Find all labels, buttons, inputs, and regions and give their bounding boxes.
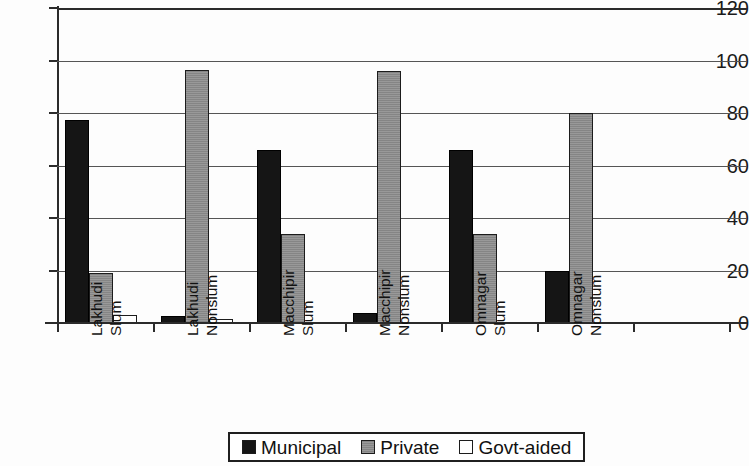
gridline: [57, 218, 747, 219]
legend-swatch-municipal-icon: [242, 440, 256, 454]
x-axis-label: MacchipirSlum: [279, 246, 323, 336]
legend-item-municipal: Municipal: [242, 438, 341, 457]
bar-chart: 020406080100120 LakhudiSlumLakhudiNonslu…: [0, 0, 749, 466]
legend-swatch-private-icon: [361, 440, 375, 454]
x-axis-label-line: Lakhudi: [87, 246, 106, 336]
legend-item-private: Private: [361, 438, 439, 457]
bar-municipal-omnagar-nonslum: [545, 271, 569, 324]
x-axis-label-line: Nonslum: [586, 246, 605, 336]
gridline: [57, 166, 747, 167]
gridline: [57, 8, 747, 10]
x-tick-mark: [633, 323, 635, 332]
x-tick-mark: [249, 323, 251, 332]
chart-legend: MunicipalPrivateGovt-aided: [228, 432, 585, 462]
x-axis-label-line: Omnagar: [567, 246, 586, 336]
x-axis-label-line: Macchipir: [279, 246, 298, 336]
x-tick-mark: [153, 323, 155, 332]
x-axis-label-line: Macchipir: [375, 246, 394, 336]
legend-item-govt: Govt-aided: [459, 438, 571, 457]
x-axis-label: LakhudiSlum: [87, 246, 131, 336]
x-axis-label-line: Lakhudi: [183, 246, 202, 336]
legend-label: Municipal: [261, 438, 341, 457]
bar-municipal-macchipir-slum: [257, 150, 281, 323]
gridline: [57, 61, 747, 62]
x-tick-mark: [345, 323, 347, 332]
x-axis-label-line: Nonslum: [202, 246, 221, 336]
legend-label: Govt-aided: [478, 438, 571, 457]
legend-swatch-govt-icon: [459, 440, 473, 454]
legend-label: Private: [380, 438, 439, 457]
x-axis-label: OmnagarSlum: [471, 246, 515, 336]
x-axis-label-line: Slum: [106, 246, 125, 336]
bar-municipal-omnagar-slum: [449, 150, 473, 323]
x-tick-mark: [441, 323, 443, 332]
gridline: [57, 113, 747, 114]
x-axis-label: MacchipirNonslum: [375, 246, 419, 336]
x-tick-mark: [537, 323, 539, 332]
x-axis-label-line: Slum: [298, 246, 317, 336]
bar-municipal-lakhudi-slum: [65, 120, 89, 323]
x-axis-label-line: Nonslum: [394, 246, 413, 336]
x-axis-label-line: Slum: [490, 246, 509, 336]
x-tick-mark: [729, 323, 731, 332]
x-tick-mark: [57, 323, 59, 332]
x-axis-label: LakhudiNonslum: [183, 246, 227, 336]
x-axis-label: OmnagarNonslum: [567, 246, 611, 336]
x-axis-label-line: Omnagar: [471, 246, 490, 336]
